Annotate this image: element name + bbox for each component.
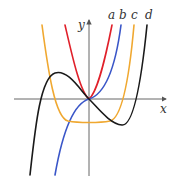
y-axis-label: y <box>77 18 85 32</box>
curve-label-c: c <box>131 8 138 22</box>
plot-canvas: x y abcd <box>0 0 178 179</box>
curve-a <box>65 25 112 99</box>
curve-label-a: a <box>108 8 115 22</box>
x-axis-label: x <box>160 102 167 116</box>
derivative-graphs-figure: x y abcd <box>0 0 178 179</box>
curve-label-d: d <box>145 8 153 22</box>
curve-label-b: b <box>119 8 127 22</box>
curves-group: abcd <box>30 8 153 175</box>
curve-c <box>42 25 134 123</box>
curve-b <box>55 25 121 175</box>
